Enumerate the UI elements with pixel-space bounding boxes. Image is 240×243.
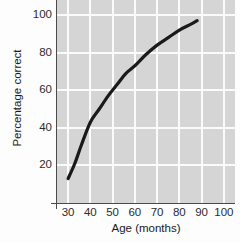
plot-area bbox=[57, 0, 235, 203]
x-axis-line bbox=[51, 203, 235, 204]
x-tick-label: 100 bbox=[209, 206, 239, 218]
series-path bbox=[68, 21, 197, 179]
y-axis-title: Percentage correct bbox=[11, 18, 23, 178]
x-axis-title: Age (months) bbox=[57, 222, 235, 234]
data-line-series bbox=[57, 0, 235, 203]
y-axis-tick-labels: 20406080100 bbox=[0, 0, 52, 203]
x-axis-tick-labels: 30405060708090100 bbox=[57, 206, 235, 222]
y-axis-line bbox=[56, 0, 57, 209]
chart-figure: 20406080100 30405060708090100 Age (month… bbox=[0, 0, 240, 243]
